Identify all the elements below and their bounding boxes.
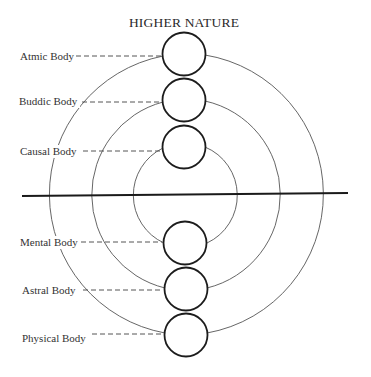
label-physical-body: Physical Body [22,332,86,344]
buddic-body-circle [163,79,206,122]
astral-body-circle [165,268,208,311]
causal-body-circle [163,126,206,169]
nature-divider-line [22,193,348,196]
atmic-body-circle [163,33,206,76]
physical-body-circle [165,314,208,357]
label-mental-body: Mental Body [20,236,78,248]
higher-nature-diagram: HIGHER NATURE [0,0,371,377]
mental-body-circle [164,222,207,265]
label-buddic-body: Buddic Body [19,95,78,107]
label-astral-body: Astral Body [22,284,76,296]
diagram-title: HIGHER NATURE [129,15,239,30]
label-atmic-body: Atmic Body [20,50,75,62]
body-labels: Atmic Body Buddic Body Causal Body Menta… [19,50,86,344]
label-causal-body: Causal Body [20,145,77,157]
